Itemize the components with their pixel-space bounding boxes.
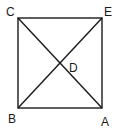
geometry-diagram: C E A B D (0, 0, 130, 132)
intersection-label-d: D (69, 61, 78, 75)
vertex-label-e: E (104, 5, 112, 19)
vertex-label-c: C (6, 5, 15, 19)
vertex-label-a: A (101, 115, 109, 129)
vertex-label-b: B (8, 112, 16, 126)
